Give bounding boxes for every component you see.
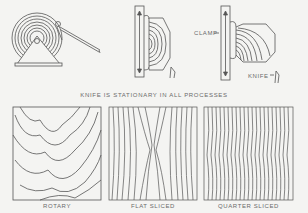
quarter-sliced-label: QUARTER SLICED	[204, 203, 293, 209]
quarter-sliced-grain-panel	[204, 107, 293, 200]
veneer-cutting-diagram	[0, 0, 308, 213]
flat-sliced-label: FLAT SLICED	[109, 203, 197, 209]
quarter-slicing-illustration	[214, 6, 279, 83]
rotary-lathe-illustration	[12, 13, 100, 66]
flat-sliced-grain-panel	[109, 107, 197, 200]
rotary-label: ROTARY	[13, 203, 101, 209]
flat-slicing-illustration	[135, 6, 175, 78]
rotary-grain-panel	[13, 107, 101, 200]
process-caption: KNIFE IS STATIONARY IN ALL PROCESSES	[0, 92, 308, 98]
clamp-label: CLAMP	[194, 30, 218, 36]
knife-label: KNIFE	[248, 73, 269, 79]
